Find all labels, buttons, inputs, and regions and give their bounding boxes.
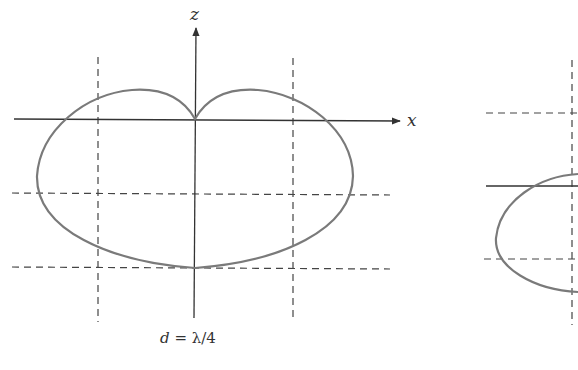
- dashed-grid-right: [484, 60, 578, 325]
- left-panel: z x d = λ/4: [12, 4, 417, 347]
- z-axis-label: z: [189, 4, 200, 24]
- x-axis: [14, 119, 400, 121]
- right-panel: [484, 60, 578, 325]
- radiation-pattern-curve-right: [496, 174, 578, 292]
- antenna-pattern-diagram: z x d = λ/4: [0, 0, 578, 370]
- dashed-grid: [12, 57, 390, 322]
- caption: d = λ/4: [160, 329, 216, 347]
- x-axis-label: x: [407, 110, 417, 130]
- z-axis: [194, 28, 196, 318]
